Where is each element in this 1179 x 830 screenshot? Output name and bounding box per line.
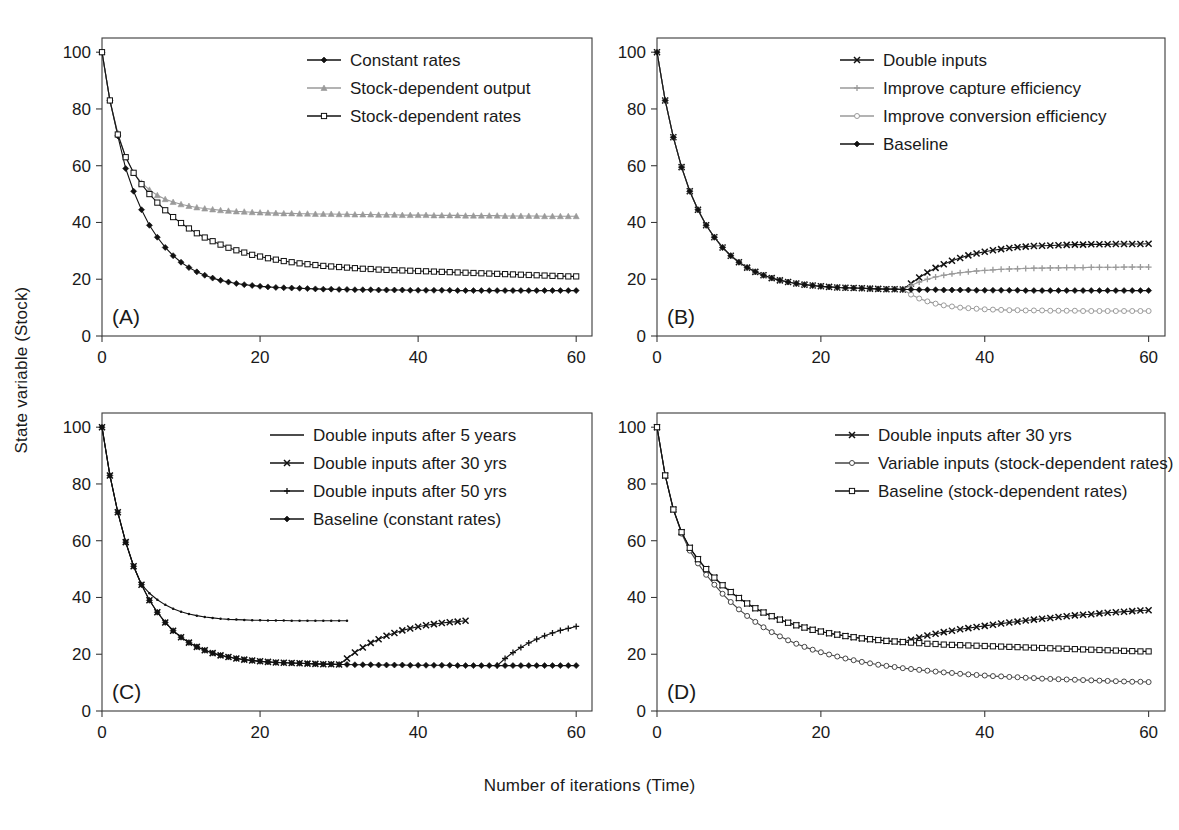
data-point-marker [439,287,445,293]
data-point-marker [376,662,382,668]
data-point-marker [283,619,286,622]
data-point-marker [949,258,955,264]
data-point-marker [549,663,555,669]
data-point-marker [376,287,382,293]
data-point-marker [1072,647,1077,652]
panel-c: 0204060801000204060(C)Double inputs afte… [40,393,600,773]
y-tick-label: 100 [618,43,646,62]
data-point-marker [518,663,524,669]
data-point-marker [933,641,938,646]
data-point-marker [431,662,437,668]
data-point-marker [243,619,246,622]
x-tick-label: 0 [97,723,106,742]
data-point-marker [933,274,939,280]
data-point-marker [1040,308,1045,313]
data-point-marker [203,616,206,619]
data-point-marker [557,627,563,633]
data-point-marker [958,305,963,310]
data-point-marker [949,271,955,277]
data-point-marker [1105,309,1110,314]
data-point-marker [447,287,453,293]
data-point-marker [534,288,540,294]
data-point-marker [558,274,563,279]
data-point-marker [654,425,659,430]
data-point-marker [320,286,326,292]
panel-d-plot: 0204060801000204060(D)Double inputs afte… [595,393,1175,773]
data-point-marker [1137,264,1143,270]
data-point-marker [447,270,452,275]
data-point-marker [1015,266,1021,272]
data-point-marker [304,286,310,292]
data-point-marker [777,634,782,639]
legend-label: Double inputs after 30 yrs [878,426,1072,445]
data-point-marker [1039,288,1045,294]
panel-c-plot: 0204060801000204060(C)Double inputs afte… [40,393,600,773]
data-point-marker [941,642,946,647]
y-tick-label: 80 [72,475,91,494]
legend-label: Constant rates [350,51,461,70]
data-point-marker [1113,264,1119,270]
data-point-marker [958,671,963,676]
data-point-marker [679,530,684,535]
data-point-marker [1023,645,1028,650]
data-point-marker [502,663,508,669]
data-point-marker [1089,678,1094,683]
data-point-marker [495,271,500,276]
data-point-marker [227,618,230,621]
data-point-marker [1089,647,1094,652]
data-point-marker [281,258,286,263]
data-point-marker [810,647,815,652]
data-point-marker [998,287,1004,293]
data-point-marker [131,170,136,175]
data-point-marker [876,662,881,667]
data-point-marker [107,98,112,103]
x-tick-label: 20 [251,723,270,742]
data-point-marker [439,269,444,274]
data-point-marker [965,287,971,293]
data-point-marker [1048,308,1053,313]
data-point-marker [146,222,152,228]
data-point-marker [854,141,860,147]
x-tick-label: 40 [975,348,994,367]
data-point-marker [470,288,476,294]
data-point-marker [219,618,222,621]
data-point-marker [1055,265,1061,271]
data-point-marker [1015,675,1020,680]
data-point-marker [322,619,325,622]
x-tick-label: 40 [975,723,994,742]
data-point-marker [344,286,350,292]
data-point-marker [818,650,823,655]
data-point-marker [974,306,979,311]
data-point-marker [526,663,532,669]
panel-d: 0204060801000204060(D)Double inputs afte… [595,393,1175,773]
data-point-marker [1081,309,1086,314]
y-tick-label: 60 [627,532,646,551]
y-tick-label: 60 [627,157,646,176]
data-point-marker [447,662,453,668]
data-point-marker [557,663,563,669]
data-point-marker [924,276,930,282]
data-point-marker [1096,288,1102,294]
y-tick-label: 0 [637,702,646,721]
data-point-marker [392,268,397,273]
legend-label: Double inputs after 5 years [313,426,516,445]
data-point-marker [933,287,939,293]
x-tick-label: 60 [567,723,586,742]
data-point-marker [1088,288,1094,294]
series-double-inputs-after-5-years [101,426,349,622]
data-point-marker [933,669,938,674]
legend-label: Double inputs after 50 yrs [313,482,507,501]
y-tick-label: 100 [63,43,91,62]
data-point-marker [549,288,555,294]
data-point-marker [542,663,548,669]
data-point-marker [148,592,151,595]
y-tick-label: 100 [618,418,646,437]
data-point-marker [534,663,540,669]
data-point-marker [941,670,946,675]
data-point-marker [1056,677,1061,682]
data-point-marker [344,265,349,270]
data-point-marker [487,271,492,276]
series-double-inputs-after-50-yrs [494,623,579,668]
data-point-marker [1105,264,1111,270]
data-point-marker [1146,288,1152,294]
